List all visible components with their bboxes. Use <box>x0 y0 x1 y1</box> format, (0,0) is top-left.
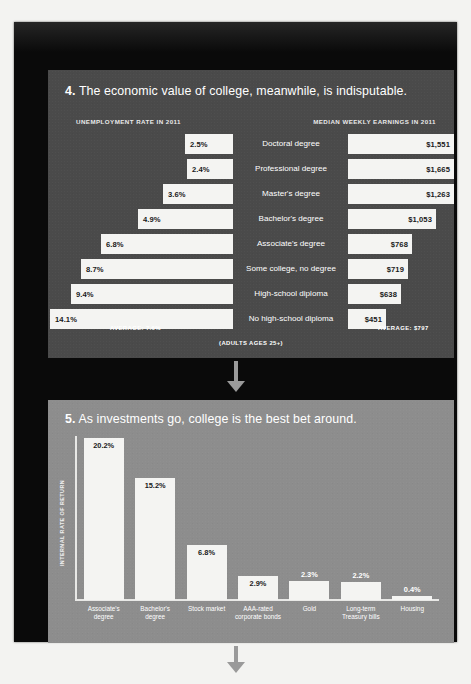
unemployment-bar: 3.6% <box>163 184 233 204</box>
return-bar: 2.9% <box>238 576 278 600</box>
unemployment-bar: 8.7% <box>81 259 233 279</box>
rate-of-return-bars: 20.2%15.2%6.8%2.9%2.3%2.2%0.4% <box>78 436 438 600</box>
earnings-average-label: AVERAGE: $797 <box>378 325 429 331</box>
category-label: Stock market <box>181 605 232 620</box>
unemployment-bar: 2.5% <box>185 134 233 154</box>
earnings-bar-cell: $1,053 <box>348 207 454 231</box>
earnings-value: $638 <box>380 290 397 299</box>
education-comparison-rows: 2.5%Doctoral degree$1,5512.4%Professiona… <box>48 132 454 332</box>
earnings-bar: $768 <box>348 234 412 254</box>
panel-5-headline-text: As investments go, college is the best b… <box>78 412 356 426</box>
bar-column: 6.8% <box>181 436 232 600</box>
unemployment-value: 3.6% <box>168 190 186 199</box>
down-arrow-icon <box>225 361 247 392</box>
return-bar: 2.2% <box>341 582 381 600</box>
unemployment-bar-cell: 8.7% <box>48 257 233 281</box>
bar-column: 15.2% <box>129 436 180 600</box>
unemployment-average-label: AVERAGE: 7.6% <box>110 325 161 331</box>
table-row: 8.7%Some college, no degree$719 <box>48 257 454 281</box>
education-level-label: No high-school diploma <box>236 307 346 331</box>
earnings-bar: $1,263 <box>348 184 454 204</box>
panel-4-number: 4. <box>65 84 76 98</box>
earnings-bar-cell: $719 <box>348 257 454 281</box>
earnings-bar: $719 <box>348 259 408 279</box>
panel-4-headline: 4. The economic value of college, meanwh… <box>65 84 444 98</box>
table-row: 4.9%Bachelor's degree$1,053 <box>48 207 454 231</box>
category-label: Gold <box>284 605 335 620</box>
board-sheen <box>14 22 457 52</box>
category-label: AAA-rated corporate bonds <box>232 605 283 620</box>
earnings-value: $451 <box>365 315 382 324</box>
arrow-head <box>227 381 245 392</box>
unemployment-bar: 6.8% <box>101 234 233 254</box>
earnings-value: $719 <box>387 265 404 274</box>
unemployment-bar-cell: 6.8% <box>48 232 233 256</box>
table-row: 9.4%High-school diploma$638 <box>48 282 454 306</box>
panel-4-headline-text: The economic value of college, meanwhile… <box>79 84 407 98</box>
return-value-label: 6.8% <box>187 548 227 557</box>
earnings-bar: $638 <box>348 284 401 304</box>
bar-column: 2.3% <box>284 436 335 600</box>
y-axis-label-text: INTERNAL RATE OF RETURN <box>59 480 65 566</box>
unemployment-bar-cell: 3.6% <box>48 182 233 206</box>
arrow-stem <box>234 646 238 662</box>
table-row: 3.6%Master's degree$1,263 <box>48 182 454 206</box>
unemployment-bar: 2.4% <box>187 159 233 179</box>
education-level-label: Some college, no degree <box>236 257 346 281</box>
panel-5: 5. As investments go, college is the bes… <box>48 400 454 643</box>
category-label: Long-term Treasury bills <box>335 605 386 620</box>
earnings-bar: $1,551 <box>348 134 454 154</box>
unemployment-bar-cell: 2.4% <box>48 157 233 181</box>
earnings-value: $1,053 <box>408 215 432 224</box>
earnings-bar: $1,665 <box>348 159 454 179</box>
category-label: Associate's degree <box>78 605 129 620</box>
education-level-label: Doctoral degree <box>236 132 346 156</box>
arrow-head <box>227 662 245 673</box>
unemployment-bar: 4.9% <box>138 209 233 229</box>
return-value-label: 15.2% <box>135 481 175 490</box>
unemployment-bar-cell: 2.5% <box>48 132 233 156</box>
bar-column: 2.9% <box>232 436 283 600</box>
down-arrow-icon-bottom <box>225 646 247 673</box>
earnings-value: $1,263 <box>426 190 450 199</box>
earnings-column-header: MEDIAN WEEKLY EARNINGS IN 2011 <box>313 118 436 125</box>
earnings-bar-cell: $1,263 <box>348 182 454 206</box>
table-row: 2.4%Professional degree$1,665 <box>48 157 454 181</box>
category-label: Housing <box>387 605 438 620</box>
unemployment-value: 14.1% <box>55 315 77 324</box>
infographic-page: 4. The economic value of college, meanwh… <box>0 0 471 684</box>
unemployment-value: 2.5% <box>190 140 208 149</box>
table-row: 2.5%Doctoral degree$1,551 <box>48 132 454 156</box>
panel-4: 4. The economic value of college, meanwh… <box>48 70 454 358</box>
return-bar: 2.3% <box>289 581 329 600</box>
return-bar: 20.2% <box>84 438 124 600</box>
bar-column: 2.2% <box>335 436 386 600</box>
y-axis-line <box>75 436 77 600</box>
y-axis-label: INTERNAL RATE OF RETURN <box>56 448 68 598</box>
education-level-label: Master's degree <box>236 182 346 206</box>
unemployment-column-header: UNEMPLOYMENT RATE IN 2011 <box>76 118 181 125</box>
panel-5-number: 5. <box>65 412 76 426</box>
bar-column: 20.2% <box>78 436 129 600</box>
return-bar: 15.2% <box>135 478 175 600</box>
earnings-value: $1,551 <box>426 140 450 149</box>
panel-5-headline: 5. As investments go, college is the bes… <box>65 412 444 426</box>
earnings-value: $1,665 <box>426 165 450 174</box>
earnings-bar: $1,053 <box>348 209 436 229</box>
unemployment-value: 9.4% <box>76 290 94 299</box>
rate-of-return-categories: Associate's degreeBachelor's degreeStock… <box>78 605 438 620</box>
arrow-stem <box>234 361 238 381</box>
unemployment-value: 4.9% <box>143 215 161 224</box>
return-bar: 0.4% <box>392 596 432 600</box>
table-row: 6.8%Associate's degree$768 <box>48 232 454 256</box>
unemployment-bar: 9.4% <box>71 284 233 304</box>
unemployment-value: 6.8% <box>106 240 124 249</box>
return-value-label: 20.2% <box>84 441 124 450</box>
unemployment-value: 8.7% <box>86 265 104 274</box>
infographic-board: 4. The economic value of college, meanwh… <box>14 22 457 642</box>
earnings-value: $768 <box>391 240 408 249</box>
earnings-bar-cell: $1,551 <box>348 132 454 156</box>
education-level-label: Bachelor's degree <box>236 207 346 231</box>
return-value-label: 0.4% <box>392 585 432 594</box>
unemployment-value: 2.4% <box>192 165 210 174</box>
